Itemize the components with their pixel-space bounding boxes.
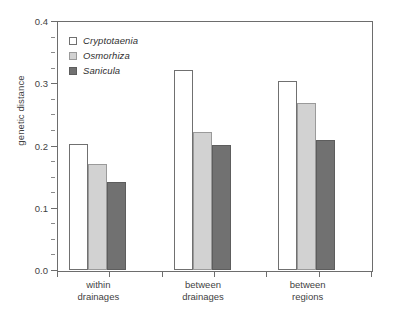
y-axis-tick-label: 0.4 bbox=[22, 16, 48, 27]
bar-between-regions-cryptotaenia bbox=[278, 81, 297, 270]
y-axis-tick-label: 0.2 bbox=[22, 140, 48, 151]
y-axis-minor-tick bbox=[51, 254, 55, 255]
bar-between-regions-sanicula bbox=[316, 140, 335, 270]
y-axis-tick-label: 0.0 bbox=[22, 265, 48, 276]
y-axis-minor-tick bbox=[51, 239, 55, 240]
x-axis-tick-label-line: between bbox=[148, 279, 258, 291]
x-axis-tick-label-line: regions bbox=[253, 291, 363, 303]
bar-chart-figure: genetic distance 0.00.10.20.30.4 withind… bbox=[0, 0, 394, 318]
y-axis-minor-tick bbox=[51, 161, 55, 162]
y-axis-minor-tick bbox=[51, 177, 55, 178]
x-axis-tick bbox=[319, 271, 320, 277]
legend-item-osmorhiza: Osmorhiza bbox=[69, 49, 138, 62]
y-axis-minor-tick bbox=[51, 99, 55, 100]
y-axis-tick-labels: 0.00.10.20.30.4 bbox=[22, 0, 48, 318]
x-axis-tick-label: betweendrainages bbox=[148, 279, 258, 303]
x-axis-tick-label: withindrainages bbox=[43, 279, 153, 303]
legend-swatch-icon bbox=[69, 52, 77, 60]
x-axis-tick bbox=[162, 271, 163, 277]
y-axis-minor-tick bbox=[51, 192, 55, 193]
x-axis-tick bbox=[214, 271, 215, 277]
y-axis-tick-label: 0.3 bbox=[22, 78, 48, 89]
y-axis-minor-tick bbox=[51, 130, 55, 131]
bar-within-drainages-osmorhiza bbox=[88, 164, 107, 270]
y-axis-minor-tick bbox=[51, 223, 55, 224]
x-axis-tick bbox=[266, 271, 267, 277]
bar-between-regions-osmorhiza bbox=[297, 103, 316, 270]
x-axis-tick-label: betweenregions bbox=[253, 279, 363, 303]
y-axis-minor-tick bbox=[51, 37, 55, 38]
legend-item-cryptotaenia: Cryptotaenia bbox=[69, 34, 138, 47]
x-axis-tick-label-line: between bbox=[253, 279, 363, 291]
y-axis-minor-tick bbox=[51, 114, 55, 115]
legend-swatch-icon bbox=[69, 67, 77, 75]
bar-between-drainages-cryptotaenia bbox=[174, 70, 193, 270]
bar-within-drainages-sanicula bbox=[107, 182, 126, 270]
x-axis-tick bbox=[57, 271, 58, 277]
legend-item-label: Cryptotaenia bbox=[83, 35, 138, 46]
y-axis-minor-tick bbox=[51, 68, 55, 69]
chart-legend: CryptotaeniaOsmorhizaSanicula bbox=[69, 34, 138, 79]
legend-swatch-icon bbox=[69, 37, 77, 45]
x-axis-tick-label-line: drainages bbox=[43, 291, 153, 303]
x-axis-tick bbox=[371, 271, 372, 277]
y-axis-minor-tick bbox=[51, 52, 55, 53]
bar-between-drainages-sanicula bbox=[212, 145, 231, 270]
legend-item-label: Sanicula bbox=[83, 65, 120, 76]
bar-within-drainages-cryptotaenia bbox=[69, 144, 88, 270]
bar-between-drainages-osmorhiza bbox=[193, 132, 212, 270]
x-axis-tick bbox=[109, 271, 110, 277]
x-axis-tick-label-line: within bbox=[43, 279, 153, 291]
legend-item-label: Osmorhiza bbox=[83, 50, 130, 61]
legend-item-sanicula: Sanicula bbox=[69, 64, 138, 77]
y-axis-tick-label: 0.1 bbox=[22, 202, 48, 213]
x-axis-tick-label-line: drainages bbox=[148, 291, 258, 303]
